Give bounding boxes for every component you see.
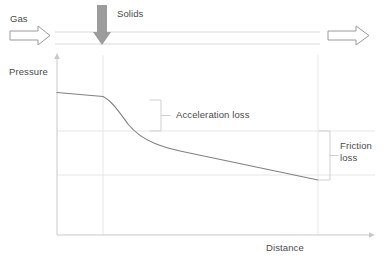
gas-label: Gas	[10, 13, 28, 25]
y-axis-arrow-tip	[54, 53, 60, 59]
x-axis-arrow-tip	[369, 232, 375, 238]
pressure-curve-path	[57, 93, 318, 181]
friction-loss-label: Friction loss	[340, 140, 372, 164]
solids-feed-arrow	[93, 5, 111, 45]
gas-outlet-arrow	[328, 26, 369, 45]
solids-label: Solids	[117, 8, 143, 20]
pressure-curve	[57, 93, 318, 181]
friction-loss-bracket	[319, 131, 338, 180]
acceleration-loss-label: Acceleration loss	[176, 109, 250, 121]
pressure-distance-figure: Gas Solids Pressure Distance Acceleratio…	[0, 0, 388, 261]
plot-gridlines	[57, 55, 375, 235]
acceleration-loss-bracket	[150, 100, 170, 131]
x-axis-label: Distance	[266, 242, 304, 254]
diagram-canvas	[0, 0, 388, 261]
y-axis-label: Pressure	[9, 66, 48, 78]
plot-axes	[54, 53, 375, 238]
gas-inlet-arrow	[10, 26, 50, 45]
